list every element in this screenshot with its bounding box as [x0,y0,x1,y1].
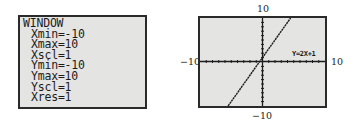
graph-plot [200,18,325,106]
graph-screen: Y=2X+1 [198,16,327,108]
window-settings-screen: WINDOW Xmin=-10 Xmax=10 Xscl=1 Ymin=-10 … [18,15,147,109]
function-label: Y=2X+1 [292,50,316,58]
y-axis-min-label: −10 [252,111,272,121]
setting-xres[interactable]: Xres=1 [23,92,145,103]
x-axis-max-label: 10 [331,57,343,67]
y-axis-max-label: 10 [257,4,269,14]
